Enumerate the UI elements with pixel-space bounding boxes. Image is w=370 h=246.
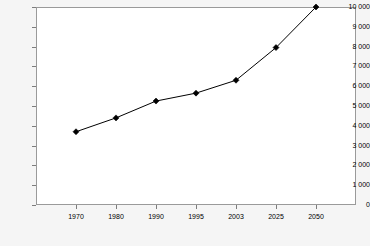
data-point-marker: 1980: 4400 [113, 115, 119, 121]
chart-container: 01 0002 0003 0004 0005 0006 0007 0008 00… [0, 0, 370, 246]
series-markers: 1970: 37001980: 44001990: 52501995: 5650… [73, 4, 319, 135]
data-point-marker: 1995: 5650 [193, 90, 199, 96]
data-series-layer: 1970: 37001980: 44001990: 52501995: 5650… [0, 0, 370, 246]
data-point-marker: 1970: 3700 [73, 129, 79, 135]
data-point-marker: 1990: 5250 [153, 98, 159, 104]
series-line [76, 7, 316, 132]
